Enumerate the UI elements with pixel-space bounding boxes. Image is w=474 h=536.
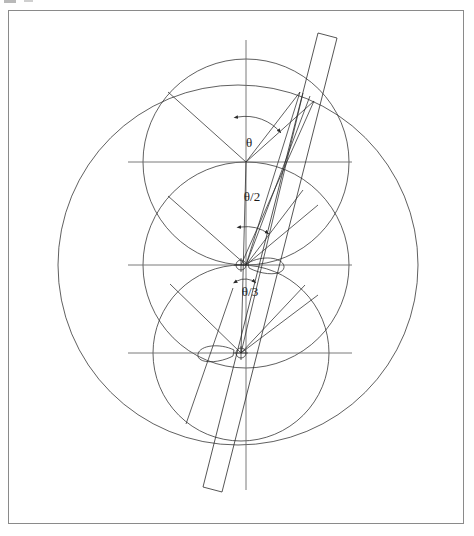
ray-lower-to-top [241,93,303,353]
lens-shape-lower-left [198,346,234,362]
ray-middle-up-vertex [246,92,300,265]
ray-middle-nw [168,196,246,265]
ray-lower-nw [170,284,241,353]
angle-label-theta-half: θ/2 [244,189,260,204]
chord-lower-left [186,288,233,424]
screenshot-page: θ θ/2 θ/3 [0,0,474,536]
geometry-diagram: θ θ/2 θ/3 [0,0,474,536]
angle-arc-theta-third [237,279,256,283]
angle-label-theta: θ [246,135,252,150]
chord-upper-right [246,96,310,265]
angle-label-theta-third: θ/3 [242,284,258,299]
ray-middle-to-top-intersection [241,101,314,265]
ray-upper-nw [168,92,246,162]
